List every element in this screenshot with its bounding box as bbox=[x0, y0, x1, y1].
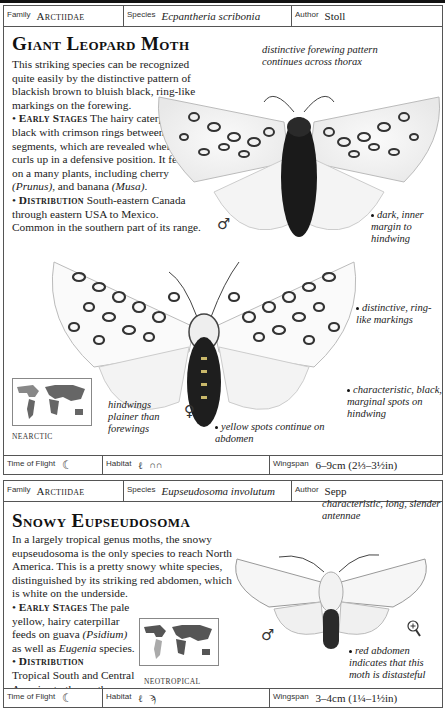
magnify-icon[interactable] bbox=[407, 620, 421, 638]
wingspan-cell: Wingspan 6–9cm (2⅓–3½in) bbox=[270, 456, 442, 474]
annotation-inner-margin: dark, inner margin to hindwing bbox=[371, 209, 443, 245]
early-stages-heading: Early Stages bbox=[19, 601, 88, 613]
species-label: Species bbox=[127, 10, 155, 19]
family-value: Arctiidae bbox=[37, 10, 85, 22]
annotation-text: characteristic, long, slender antennae bbox=[322, 498, 440, 521]
early-stages-text: species. bbox=[99, 642, 134, 654]
species-title: Giant Leopard Moth bbox=[12, 33, 189, 55]
early-stages-text: as well as bbox=[12, 642, 56, 654]
grass-icon: ℓ bbox=[138, 460, 143, 471]
annotation-antennae: characteristic, long, slender antennae bbox=[322, 498, 442, 522]
annotation-text: characteristic, black, marginal spots on… bbox=[347, 384, 442, 419]
entry1-panel: Giant Leopard Moth This striking species… bbox=[3, 27, 443, 455]
time-of-flight-cell: Time of Flight ☾ bbox=[4, 456, 103, 474]
author-value: Sepp bbox=[325, 485, 347, 497]
male-symbol: ♂ bbox=[217, 215, 230, 233]
habitat-cell: Habitat ℓ ∩∩ bbox=[103, 456, 270, 474]
male-symbol: ♂ bbox=[261, 626, 274, 644]
annotation-hindwings: hindwings plainer than forewings bbox=[108, 399, 168, 435]
time-of-flight-label: Time of Flight bbox=[7, 459, 55, 468]
entry2-panel: Snowy Eupseudosoma In a largely tropical… bbox=[3, 502, 443, 688]
female-symbol: ♀ bbox=[184, 402, 195, 420]
annotation-thorax: distinctive forewing pattern continues a… bbox=[262, 44, 382, 68]
neotropical-label: NEOTROPICAL bbox=[144, 677, 200, 686]
time-of-flight-cell: Time of Flight ☾ bbox=[4, 689, 103, 707]
hedge-icon: ∩∩ bbox=[149, 460, 162, 470]
annotation-text: yellow spots continue on abdomen bbox=[215, 421, 325, 444]
species-title: Snowy Eupseudosoma bbox=[12, 510, 190, 532]
annotation-text: dark, inner margin to hindwing bbox=[371, 209, 424, 244]
early-stages-text: . bbox=[144, 180, 147, 192]
annotation-text: hindwings plainer than forewings bbox=[108, 399, 160, 434]
time-of-flight-label: Time of Flight bbox=[7, 692, 55, 701]
distribution-heading: Distribution bbox=[19, 655, 84, 667]
wingspan-label: Wingspan bbox=[273, 459, 309, 468]
species-description-intro: In a largely tropical genus moths, the s… bbox=[12, 533, 240, 601]
annotation-marginal-spots: characteristic, black, marginal spots on… bbox=[347, 384, 443, 420]
entry2-footer: Time of Flight ☾ Habitat ℓ ϡ Wingspan 3–… bbox=[3, 688, 443, 708]
habitat-label: Habitat bbox=[106, 692, 131, 701]
author-label: Author bbox=[295, 485, 319, 494]
habitat-cell: Habitat ℓ ϡ bbox=[103, 689, 270, 707]
early-stages-heading: Early Stages bbox=[19, 112, 88, 124]
leader-dot bbox=[356, 307, 359, 310]
latin-name: (Psidium) bbox=[83, 628, 128, 640]
latin-name: (Prunus) bbox=[12, 180, 52, 192]
moon-icon: ☾ bbox=[62, 458, 73, 473]
moon-icon: ☾ bbox=[62, 691, 73, 706]
species-label: Species bbox=[127, 485, 155, 494]
annotation-text: red abdomen indicates that this moth is … bbox=[349, 645, 425, 680]
leader-dot bbox=[347, 389, 350, 392]
species-value: Eupseudosoma involutum bbox=[161, 485, 274, 497]
intro-text: In a largely tropical genus moths, the s… bbox=[12, 533, 232, 599]
nearctic-range-map bbox=[12, 378, 92, 426]
neotropical-range-map bbox=[139, 618, 219, 666]
author-label: Author bbox=[295, 10, 319, 19]
world-map-icon bbox=[140, 619, 218, 665]
leader-dot bbox=[215, 426, 218, 429]
annotation-text: distinctive, ring-like markings bbox=[356, 302, 431, 325]
habitat-label: Habitat bbox=[106, 459, 131, 468]
annotation-yellow-spots: yellow spots continue on abdomen bbox=[215, 421, 335, 445]
world-map-icon bbox=[13, 379, 91, 425]
family-cell: Family Arctiidae bbox=[4, 6, 124, 26]
latin-name: (Musa) bbox=[112, 180, 145, 192]
wingspan-cell: Wingspan 3–4cm (1¼–1½in) bbox=[270, 689, 442, 707]
wingspan-value: 3–4cm (1¼–1½in) bbox=[316, 692, 398, 704]
family-label: Family bbox=[7, 485, 31, 494]
annotation-red-abdomen: red abdomen indicates that this moth is … bbox=[349, 645, 444, 681]
family-cell: Family Arctiidae bbox=[4, 481, 124, 501]
author-value: Stoll bbox=[325, 10, 346, 22]
annotation-text: distinctive forewing pattern continues a… bbox=[262, 44, 378, 67]
leader-dot bbox=[349, 650, 352, 653]
palm-tree-icon: ϡ bbox=[149, 691, 156, 706]
wingspan-value: 6–9cm (2⅓–3½in) bbox=[316, 459, 398, 471]
family-label: Family bbox=[7, 10, 31, 19]
leader-dot bbox=[371, 214, 374, 217]
family-value: Arctiidae bbox=[37, 485, 85, 497]
annotation-ring-markings: distinctive, ring-like markings bbox=[356, 302, 442, 326]
early-stages-text: , and banana bbox=[52, 180, 109, 192]
entry1-footer: Time of Flight ☾ Habitat ℓ ∩∩ Wingspan 6… bbox=[3, 455, 443, 475]
nearctic-label: NEARCTIC bbox=[12, 432, 53, 441]
species-cell: Species Ecpantheria scribonia bbox=[124, 6, 292, 26]
species-value: Ecpantheria scribonia bbox=[161, 10, 260, 22]
author-cell: Author Stoll bbox=[292, 6, 442, 26]
latin-name: Eugenia bbox=[59, 642, 97, 654]
wingspan-label: Wingspan bbox=[273, 692, 309, 701]
grass-icon: ℓ bbox=[138, 693, 143, 704]
entry1-meta-row: Family Arctiidae Species Ecpantheria scr… bbox=[3, 5, 443, 27]
top-rule bbox=[0, 0, 445, 3]
species-cell: Species Eupseudosoma involutum bbox=[124, 481, 292, 501]
distribution-heading: Distribution bbox=[19, 194, 84, 206]
